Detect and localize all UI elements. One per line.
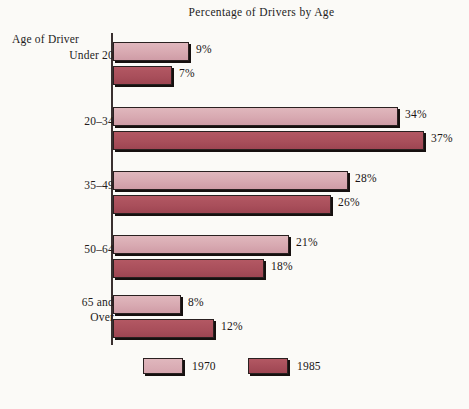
bar-row-1985: 37% <box>113 131 469 150</box>
bar-value-20-34-1985: 37% <box>431 132 453 144</box>
bar-row-1985: 12% <box>113 319 274 338</box>
bar-value-under-20-1985: 7% <box>179 67 195 79</box>
bar-value-35-49-1970: 28% <box>355 172 377 184</box>
category-label-35-49: 35–49 <box>0 178 114 193</box>
bar-value-under-20-1970: 9% <box>196 43 212 55</box>
legend-item-1970[interactable]: 1970 <box>143 355 216 377</box>
chart-legend: 1970 1985 <box>0 355 469 385</box>
bar-row-1970: 21% <box>113 235 349 254</box>
bar-35-49-1985[interactable] <box>113 195 331 214</box>
bar-row-1970: 8% <box>113 295 241 314</box>
bar-row-1985: 26% <box>113 195 391 214</box>
category-label-line: 20–34 <box>0 114 114 129</box>
bar-under-20-1985[interactable] <box>113 66 172 85</box>
bar-row-1970: 28% <box>113 171 408 190</box>
category-label-line: 35–49 <box>0 178 114 193</box>
bar-value-65-and-over-1970: 8% <box>188 296 204 308</box>
bar-35-49-1970[interactable] <box>113 171 348 190</box>
bar-50-64-1985[interactable] <box>113 259 264 278</box>
bar-under-20-1970[interactable] <box>113 42 189 61</box>
category-label-under-20: Under 20 <box>0 48 114 63</box>
category-label-line: Over <box>0 310 114 325</box>
bar-20-34-1970[interactable] <box>113 107 398 126</box>
bar-row-1970: 9% <box>113 42 249 61</box>
legend-item-1985[interactable]: 1985 <box>248 355 321 377</box>
bar-row-1970: 34% <box>113 107 458 126</box>
plot-area: Age of Driver Under 20 9% 7% 20–34 34% <box>0 30 469 350</box>
bar-value-50-64-1985: 18% <box>271 260 293 272</box>
bar-value-50-64-1970: 21% <box>296 236 318 248</box>
legend-swatch-1985 <box>248 358 288 374</box>
category-label-line: 50–64 <box>0 242 114 257</box>
bar-row-1985: 7% <box>113 66 232 85</box>
bar-65-and-over-1970[interactable] <box>113 295 181 314</box>
chart-figure: Percentage of Drivers by Age Age of Driv… <box>0 0 469 409</box>
category-label-20-34: 20–34 <box>0 114 114 129</box>
chart-title: Percentage of Drivers by Age <box>0 6 469 18</box>
category-label-line: Under 20 <box>0 48 114 63</box>
bar-row-1985: 18% <box>113 259 324 278</box>
category-label-line: 65 and <box>0 295 114 310</box>
bar-50-64-1970[interactable] <box>113 235 289 254</box>
category-label-50-64: 50–64 <box>0 242 114 257</box>
bar-value-35-49-1985: 26% <box>338 196 360 208</box>
legend-label-1970: 1970 <box>192 360 216 372</box>
y-axis-caption: Age of Driver <box>12 33 79 45</box>
category-label-65-and-over: 65 and Over <box>0 295 114 325</box>
bar-value-20-34-1970: 34% <box>405 108 427 120</box>
legend-label-1985: 1985 <box>297 360 321 372</box>
bar-65-and-over-1985[interactable] <box>113 319 214 338</box>
bar-20-34-1985[interactable] <box>113 131 424 150</box>
legend-swatch-1970 <box>143 358 183 374</box>
bar-value-65-and-over-1985: 12% <box>221 320 243 332</box>
